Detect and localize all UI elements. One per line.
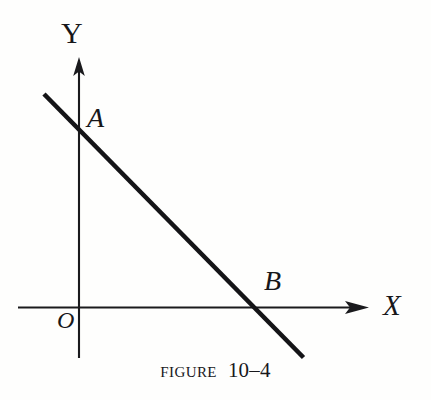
origin-label: O: [57, 308, 74, 332]
y-axis-label: Y: [61, 18, 83, 48]
line-ab: [44, 94, 304, 358]
x-axis-label: X: [383, 291, 401, 320]
figure-container: Y X A B O Figure10–4: [0, 0, 431, 400]
point-label-a: A: [87, 104, 104, 132]
figure-caption-word: Figure: [160, 358, 217, 382]
coordinate-plot: [0, 0, 431, 400]
figure-caption: Figure10–4: [0, 358, 431, 383]
point-label-b: B: [264, 267, 281, 295]
figure-caption-number: 10–4: [228, 358, 271, 382]
